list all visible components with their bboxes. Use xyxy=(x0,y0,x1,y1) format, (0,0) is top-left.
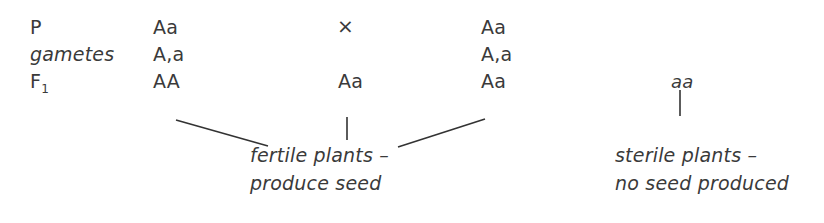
sterile-label-line2: no seed produced xyxy=(615,172,789,194)
connector-Aa-right-to-fertile xyxy=(398,119,485,147)
sterile-label-line1: sterile plants – xyxy=(615,144,757,166)
fertile-label-line2: produce seed xyxy=(250,172,382,194)
fertile-label-line1: fertile plants – xyxy=(250,144,389,166)
connector-AA-to-fertile xyxy=(176,120,268,146)
